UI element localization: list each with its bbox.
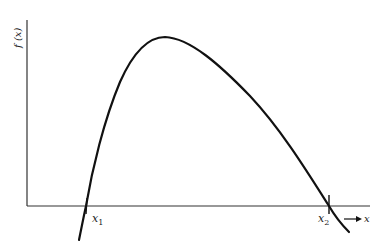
- x-axis-label: x: [364, 213, 370, 224]
- arrowhead-icon: [356, 216, 362, 222]
- function-roots-diagram: f (x) x1 x2 x: [0, 0, 384, 247]
- root-x1-subscript: 1: [98, 218, 103, 227]
- y-axis-label: f (x): [12, 28, 23, 49]
- root-x2-label: x2: [318, 212, 329, 227]
- function-curve: [79, 37, 349, 240]
- root-x2-subscript: 2: [324, 218, 329, 227]
- root-x1-tick: [86, 198, 87, 214]
- root-x1-label: x1: [92, 212, 103, 227]
